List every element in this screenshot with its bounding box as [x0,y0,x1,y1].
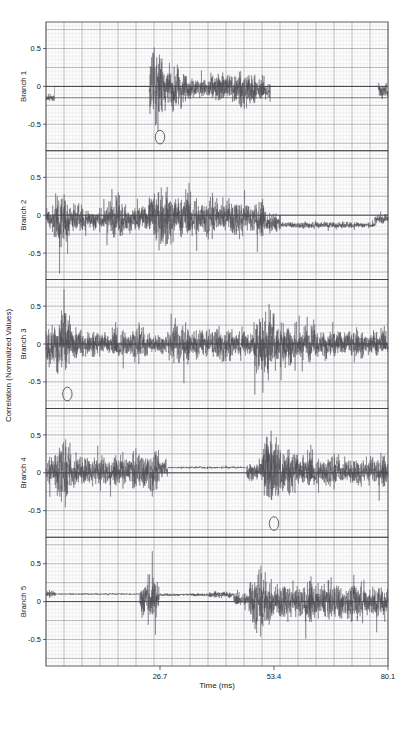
figure-root: 0.50-0.5Branch 10.50-0.5Branch 20.50-0.5… [0,0,410,730]
y-tick-label: -0.5 [28,377,41,386]
y-tick-label: 0.5 [31,302,41,311]
y-tick-label: 0 [37,468,41,477]
panel-label-1: Branch 1 [19,71,28,102]
y-tick-label: 0.5 [31,559,41,568]
y-tick-label: 0 [37,82,41,91]
y-tick-label: -0.5 [28,120,41,129]
y-tick-label: 0 [37,597,41,606]
y-axis-label: Correlation (Normalized Values) [2,0,16,730]
y-tick-label: -0.5 [28,506,41,515]
x-axis-label: Time (ms) [199,681,235,690]
panel-branch-4: 0.50-0.5Branch 4 [19,408,388,537]
y-tick-label: 0.5 [31,44,41,53]
panel-label-3: Branch 3 [19,328,28,359]
correlation-multipanel-chart: 0.50-0.5Branch 10.50-0.5Branch 20.50-0.5… [0,0,410,730]
x-tick-label: 80.1 [381,672,396,681]
panel-branch-2: 0.50-0.5Branch 2 [19,151,388,280]
panel-branch-5: 0.50-0.5Branch 5 [19,537,388,666]
panel-branch-3: 0.50-0.5Branch 3 [19,280,388,409]
y-tick-label: 0.5 [31,431,41,440]
x-tick-label: 53.4 [267,672,282,681]
y-axis-label-text: Correlation (Normalized Values) [5,308,14,421]
y-tick-label: -0.5 [28,249,41,258]
y-tick-label: 0 [37,211,41,220]
y-tick-label: 0 [37,340,41,349]
panels: 0.50-0.5Branch 10.50-0.5Branch 20.50-0.5… [19,22,388,666]
panel-label-2: Branch 2 [19,200,28,231]
x-tick-label: 26.7 [153,672,168,681]
y-tick-label: -0.5 [28,635,41,644]
x-axis: 26.753.480.1 [153,666,396,681]
panel-label-4: Branch 4 [19,457,28,489]
panel-label-5: Branch 5 [19,585,28,617]
panel-branch-1: 0.50-0.5Branch 1 [19,22,388,151]
y-tick-label: 0.5 [31,173,41,182]
